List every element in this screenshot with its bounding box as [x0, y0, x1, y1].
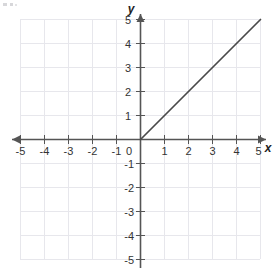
x-tick-label: -2 [88, 145, 98, 157]
plotted-line-series [141, 20, 261, 140]
scan-artifact-mark [3, 3, 7, 6]
y-axis-label: y [127, 2, 136, 16]
x-tick-label: 2 [185, 145, 191, 157]
x-tick-label: -3 [64, 145, 74, 157]
coordinate-plane-figure: -5 -4 -3 -2 -1 1 2 3 4 5 5 4 3 2 1 -1 -2… [0, 0, 278, 278]
x-tick-label: 4 [233, 145, 239, 157]
y-tick-label: -4 [124, 230, 134, 242]
scan-artifact-mark [10, 3, 13, 6]
x-tick-label: 5 [255, 145, 261, 157]
y-tick-label: 1 [125, 110, 131, 122]
axis-arrowheads [12, 14, 266, 144]
x-axis-left-arrow-icon [12, 136, 20, 144]
y-tick-label: 4 [125, 38, 131, 50]
x-tick-label: -1 [112, 145, 122, 157]
x-tick-label: 3 [209, 145, 215, 157]
y-tick-label: 2 [125, 86, 131, 98]
x-tick-label: -4 [40, 145, 50, 157]
origin-label: 0 [126, 145, 132, 157]
scan-artifact-mark [15, 4, 17, 6]
x-axis-label: x [264, 141, 273, 155]
x-tick-label: -5 [16, 145, 26, 157]
y-tick-label: 3 [125, 62, 131, 74]
y-tick-label: -3 [124, 206, 134, 218]
y-axis-up-arrow-icon [137, 14, 145, 22]
graph-canvas: -5 -4 -3 -2 -1 1 2 3 4 5 5 4 3 2 1 -1 -2… [0, 0, 278, 278]
line-y-equals-x [141, 20, 261, 140]
y-tick-label: -5 [124, 254, 134, 266]
x-tick-label: 1 [161, 145, 167, 157]
y-tick-label: -2 [124, 182, 134, 194]
y-tick-label: -1 [124, 158, 134, 170]
